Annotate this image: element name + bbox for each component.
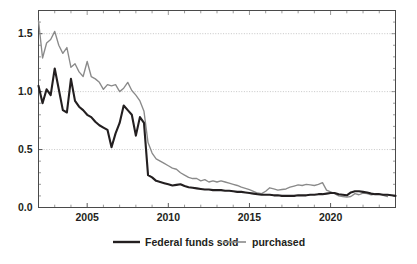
chart-container: 0.00.51.01.5 2005201020152020 Federal fu…	[0, 0, 417, 264]
x-axis-tick-label: 2010	[157, 211, 181, 223]
line-chart: 0.00.51.01.5 2005201020152020 Federal fu…	[0, 0, 417, 264]
y-axis-tick-label: 0.5	[18, 143, 33, 155]
chart-background	[0, 0, 417, 264]
x-axis-tick-label: 2020	[319, 211, 343, 223]
y-axis-tick-label: 0.0	[18, 201, 33, 213]
x-axis-tick-label: 2015	[238, 211, 262, 223]
y-axis-tick-label: 1.5	[18, 27, 33, 39]
y-axis-tick-label: 1.0	[18, 85, 33, 97]
legend-label-purchased: purchased	[252, 236, 305, 248]
x-axis-tick-label: 2005	[76, 211, 100, 223]
